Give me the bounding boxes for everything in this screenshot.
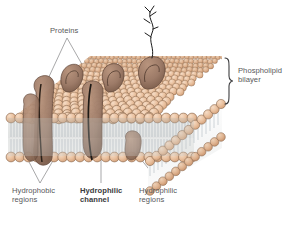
phospholipid-head [197, 72, 203, 78]
phospholipid-head [207, 54, 212, 59]
phospholipid-head [180, 54, 185, 59]
phospholipid-head [92, 55, 97, 60]
phospholipid-head [88, 54, 93, 59]
label-hydrophobic-regions: Hydrophobic regions [12, 186, 55, 204]
phospholipid-head [216, 99, 225, 108]
phospholipid-head [220, 54, 225, 59]
branched-carbohydrate-chain [144, 6, 158, 58]
phospholipid-head [167, 54, 172, 59]
phospholipid-head [198, 62, 204, 68]
label-hydrophilic-regions: Hydrophilic regions [139, 186, 177, 204]
phospholipid-head [208, 63, 214, 69]
phospholipid-head [212, 58, 217, 63]
label-hydrophilic-channel: Hydrophilic channel [80, 186, 122, 204]
phospholipid-head [113, 58, 118, 63]
phospholipid-head [203, 67, 209, 73]
phospholipid-head [176, 88, 184, 96]
label-proteins: Proteins [50, 26, 78, 35]
phospholipid-head [183, 62, 189, 68]
phospholipid-head [132, 59, 137, 64]
label-phospholipid-bilayer: Phospholipid bilayer [238, 66, 282, 84]
phospholipid-head [193, 54, 198, 59]
phospholipid-bilayer-brace [225, 58, 233, 104]
phospholipid-head [217, 133, 226, 142]
phospholipid-head [188, 79, 195, 86]
hydrophobic-core-shading [8, 118, 194, 156]
phospholipid-head [84, 58, 89, 63]
